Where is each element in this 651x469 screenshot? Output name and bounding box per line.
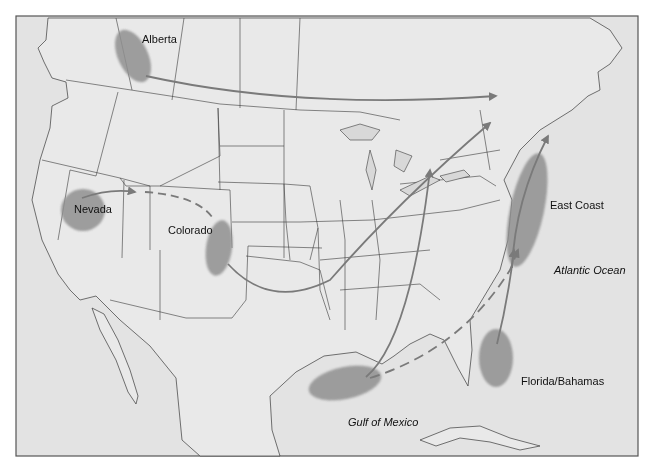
label-east-coast: East Coast: [550, 199, 604, 211]
north-america-map: Alberta Nevada Colorado East Coast Flori…: [0, 0, 651, 469]
label-gulf-of-mexico: Gulf of Mexico: [348, 416, 418, 428]
label-florida-bahamas: Florida/Bahamas: [521, 375, 605, 387]
label-alberta: Alberta: [142, 33, 178, 45]
region-florida-bahamas[interactable]: [479, 329, 513, 387]
label-nevada: Nevada: [74, 203, 113, 215]
label-colorado: Colorado: [168, 224, 213, 236]
label-atlantic-ocean: Atlantic Ocean: [553, 264, 626, 276]
